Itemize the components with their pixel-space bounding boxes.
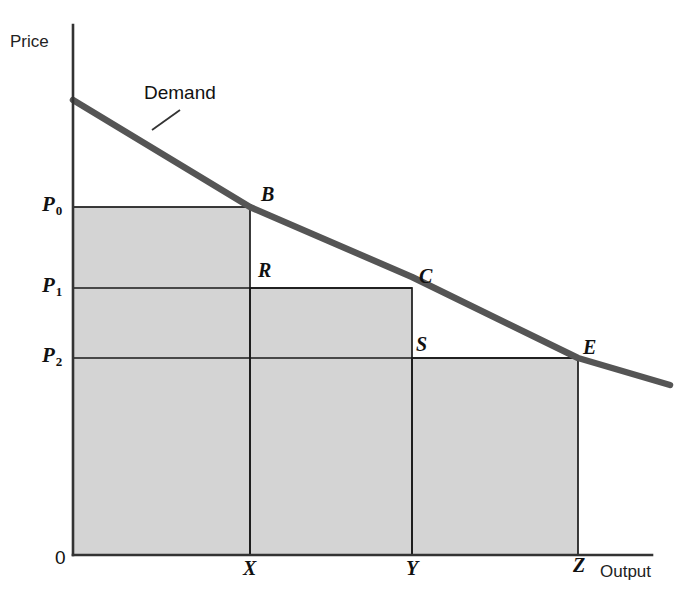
x-tick-label-y: Y [406, 558, 418, 578]
demand-leader-line [152, 110, 180, 130]
point-label-r: R [258, 260, 271, 280]
y-axis-title: Price [10, 33, 49, 50]
demand-curve-label: Demand [144, 83, 216, 102]
y-tick-label-p0-base: P [42, 192, 55, 216]
rect-Y-Z-at-P2 [412, 358, 578, 555]
y-tick-label-p2: P2 [42, 345, 61, 366]
origin-label: 0 [55, 548, 66, 567]
chart-canvas [0, 0, 692, 612]
y-tick-label-p2-base: P [42, 343, 55, 367]
x-tick-label-x: X [243, 558, 256, 578]
y-tick-label-p0-sub: 0 [56, 203, 63, 218]
y-tick-label-p1: P1 [42, 275, 61, 296]
shaded-rectangles [73, 207, 578, 555]
point-label-b: B [261, 184, 274, 204]
point-label-s: S [416, 334, 427, 354]
rect-X-Y-at-P1 [250, 288, 412, 555]
y-tick-label-p1-base: P [42, 273, 55, 297]
point-label-c: C [419, 266, 432, 286]
rect-0-X-at-P0 [73, 207, 250, 555]
price-discrimination-figure: Price Output Demand 0 P0 P1 P2 X Y Z B R… [0, 0, 692, 612]
y-tick-label-p2-sub: 2 [56, 354, 63, 369]
point-label-e: E [583, 337, 596, 357]
y-tick-label-p0: P0 [42, 194, 61, 215]
y-tick-label-p1-sub: 1 [56, 284, 63, 299]
x-axis-title: Output [600, 563, 651, 580]
x-tick-label-z: Z [573, 555, 585, 575]
